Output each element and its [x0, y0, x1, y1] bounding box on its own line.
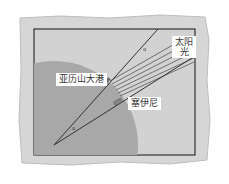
- label-sunlight-line2: 光: [175, 47, 193, 57]
- label-alexandria: 亚历山大港: [56, 73, 107, 86]
- eratosthenes-diagram: α α: [0, 0, 229, 184]
- label-syene: 塞伊尼: [128, 97, 161, 110]
- label-sunlight: 太阳 光: [172, 36, 196, 58]
- label-sunlight-line1: 太阳: [175, 37, 193, 47]
